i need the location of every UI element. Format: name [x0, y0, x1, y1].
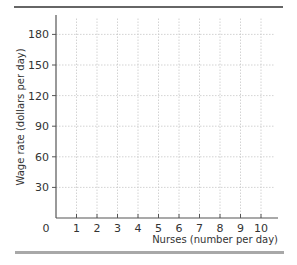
y-tick-label: 180 [28, 28, 49, 41]
x-tick-label: 2 [94, 222, 101, 235]
y-tick-label: 120 [28, 90, 49, 103]
chart: 306090120150180 012345678910 Wage rate (… [0, 0, 297, 265]
y-axis-title: Wage rate (dollars per day) [15, 48, 26, 185]
x-tick-label: 3 [114, 222, 121, 235]
x-axis-ticks: 012345678910 [43, 214, 269, 235]
bottom-bar [15, 251, 284, 254]
y-tick-label: 90 [35, 120, 49, 133]
grid [56, 17, 274, 218]
y-tick-label: 60 [35, 151, 49, 164]
x-tick-label: 4 [135, 222, 142, 235]
x-tick-label: 1 [73, 222, 80, 235]
y-axis-ticks: 306090120150180 [28, 28, 56, 194]
y-tick-label: 150 [28, 59, 49, 72]
origin-label: 0 [43, 222, 50, 235]
x-axis-title: Nurses (number per day) [152, 234, 278, 245]
y-tick-label: 30 [35, 181, 49, 194]
